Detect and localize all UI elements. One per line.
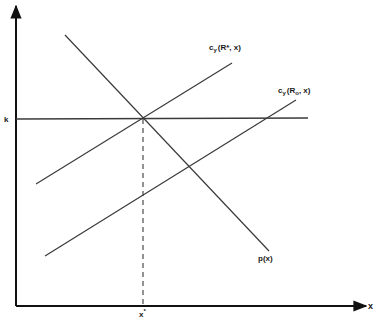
- k-line: [16, 118, 308, 119]
- p-curve: [65, 35, 269, 251]
- p-label: p(x): [258, 254, 273, 263]
- cy-ro-curve: [45, 100, 296, 256]
- cy-rstar-label: cy(R*, x): [209, 43, 241, 53]
- cy-ro-label: cy(Ro, x): [278, 86, 311, 96]
- economics-diagram: x k p(x) cy(R*, x) cy(Ro, x) x*: [0, 0, 376, 320]
- cy-rstar-curve: [36, 63, 232, 184]
- k-label: k: [4, 115, 9, 124]
- x-axis-label: x: [368, 301, 373, 311]
- x-star-label: x*: [139, 308, 146, 319]
